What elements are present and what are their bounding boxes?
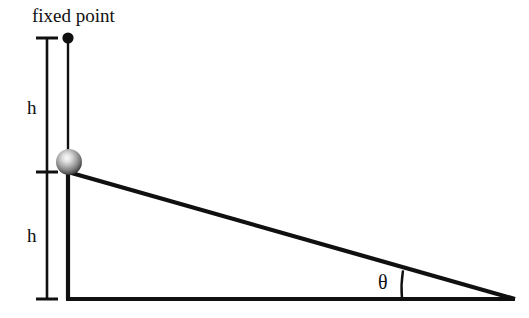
label-h-lower: h xyxy=(27,226,37,245)
label-theta-angle: θ xyxy=(378,272,388,292)
pendulum-geometry-diagram xyxy=(0,0,529,318)
theta-angle-arc xyxy=(402,270,403,299)
fixed-point-dot xyxy=(62,32,73,43)
label-fixed-point: fixed point xyxy=(32,6,115,25)
label-h-upper: h xyxy=(27,98,37,117)
pendulum-bob xyxy=(56,149,82,175)
